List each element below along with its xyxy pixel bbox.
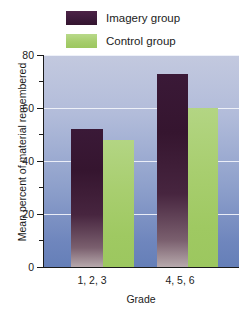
y-axis-line bbox=[43, 55, 44, 268]
bar-control-grade-4-5-6 bbox=[188, 108, 218, 267]
y-tick-80 bbox=[37, 55, 43, 56]
x-axis-title: Grade bbox=[43, 293, 239, 305]
y-tick-label-0: 0 bbox=[8, 262, 34, 272]
legend-item-control: Control group bbox=[66, 31, 241, 50]
y-axis-title: Mean percent of material remembered bbox=[16, 47, 28, 257]
gridline-80 bbox=[43, 55, 239, 56]
bar-chart-figure: Imagery group Control group 80 60 40 20 … bbox=[0, 0, 251, 322]
y-tick-50 bbox=[39, 134, 43, 135]
legend-label-control: Control group bbox=[106, 34, 176, 48]
bar-imagery-grade-4-5-6 bbox=[157, 74, 188, 267]
legend-item-imagery: Imagery group bbox=[66, 8, 241, 27]
y-tick-70 bbox=[39, 81, 43, 82]
y-tick-30 bbox=[39, 187, 43, 188]
bar-control-grade-1-2-3 bbox=[103, 140, 134, 267]
x-tick-label-group-2: 4, 5, 6 bbox=[138, 274, 222, 286]
plot-area bbox=[43, 55, 239, 267]
y-tick-40 bbox=[37, 161, 43, 162]
x-axis-line bbox=[43, 267, 239, 268]
y-tick-0 bbox=[37, 267, 43, 268]
control-swatch bbox=[66, 34, 97, 48]
y-tick-60 bbox=[37, 108, 43, 109]
imagery-swatch bbox=[66, 11, 97, 25]
legend-label-imagery: Imagery group bbox=[106, 11, 180, 25]
y-tick-20 bbox=[37, 214, 43, 215]
chart-legend: Imagery group Control group bbox=[66, 8, 241, 54]
x-tick-label-group-1: 1, 2, 3 bbox=[50, 274, 134, 286]
y-tick-10 bbox=[39, 240, 43, 241]
bar-imagery-grade-1-2-3 bbox=[71, 129, 103, 267]
